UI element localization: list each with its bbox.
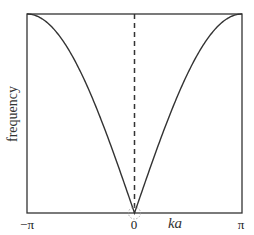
dispersion-chart bbox=[0, 0, 254, 235]
y-axis-label: frequency bbox=[5, 86, 21, 142]
x-axis-label: ka bbox=[168, 215, 182, 232]
x-tick-zero: 0 bbox=[131, 217, 138, 233]
x-tick-minus-pi: −π bbox=[20, 217, 34, 233]
x-tick-pi: π bbox=[238, 217, 245, 233]
